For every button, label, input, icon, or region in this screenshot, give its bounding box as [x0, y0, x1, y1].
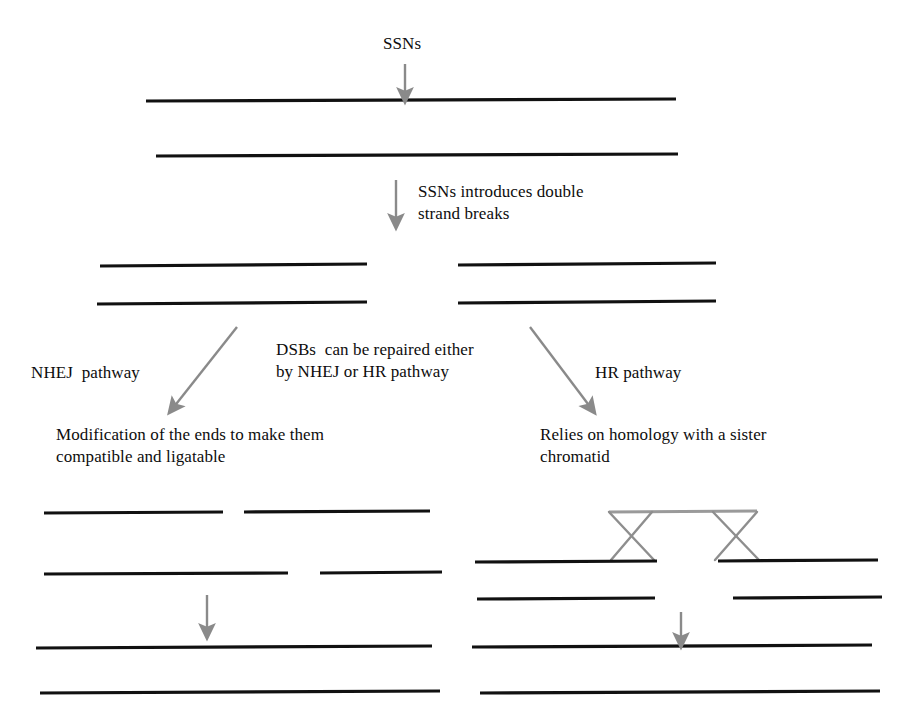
- nhej-pathway-label: NHEJ pathway: [31, 362, 140, 384]
- repair-choice-label: DSBs can be repaired either by NHEJ or H…: [276, 339, 474, 383]
- ssn-title-label: SSNs: [383, 33, 421, 55]
- homologous-template-strand: [609, 511, 757, 512]
- hr-crossover-group: [609, 511, 759, 560]
- nhej-bottom-right-strand: [320, 572, 442, 573]
- cut-left-top-strand: [100, 264, 367, 266]
- intact-strand-top: [146, 99, 676, 101]
- nhej-repaired-top-strand: [36, 646, 432, 648]
- cut-left-bottom-strand: [97, 302, 367, 304]
- hr-repaired-top-strand: [472, 645, 872, 647]
- cut-right-top-strand: [458, 263, 716, 265]
- nhej-dna-group: [36, 511, 442, 693]
- nhej-description-label: Modification of the ends to make them co…: [56, 424, 324, 468]
- arrow-to-nhej: [173, 327, 237, 408]
- nhej-bottom-left-strand: [44, 573, 288, 574]
- intact-dna-group: [146, 99, 678, 156]
- hr-dna-group: [472, 560, 882, 693]
- hr-description-label: Relies on homology with a sister chromat…: [540, 424, 767, 468]
- dna-repair-pathway-diagram: SSNs SSNs introduces double strand break…: [0, 0, 907, 713]
- hr-bottom-right-strand: [733, 597, 882, 598]
- cut-right-bottom-strand: [458, 301, 716, 303]
- hr-top-left-strand: [475, 561, 657, 562]
- intact-strand-bottom: [156, 154, 678, 156]
- cut-dna-group: [97, 263, 716, 304]
- nhej-top-left-strand: [44, 512, 223, 513]
- hr-bottom-left-strand: [477, 598, 655, 599]
- arrow-to-hr: [530, 327, 591, 408]
- hr-repaired-bottom-strand: [480, 691, 880, 693]
- dsb-introduction-label: SSNs introduces double strand breaks: [418, 181, 584, 225]
- hr-pathway-label: HR pathway: [595, 362, 681, 384]
- nhej-top-right-strand: [244, 511, 430, 512]
- nhej-repaired-bottom-strand: [40, 691, 440, 693]
- hr-top-right-strand: [718, 560, 878, 561]
